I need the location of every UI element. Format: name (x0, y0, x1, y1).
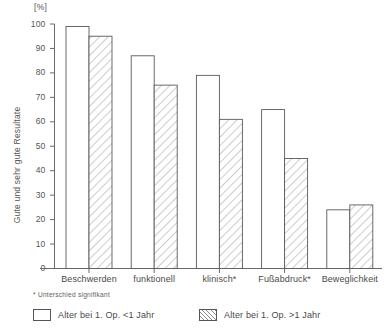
bar (131, 56, 154, 269)
bar (196, 75, 219, 268)
legend-item-open: Alter bei 1. Op. <1 Jahr (33, 309, 154, 321)
bar (89, 36, 112, 268)
legend-item-hatched: Alter bei 1. Op. >1 Jahr (199, 309, 320, 321)
bar (350, 205, 373, 269)
bar (154, 85, 177, 268)
bar (262, 110, 285, 269)
legend-label-hatched: Alter bei 1. Op. >1 Jahr (224, 310, 320, 320)
bar-chart-figure: [%] Gute und sehr gute Resultate 0102030… (0, 0, 391, 330)
y-axis-ticks (50, 24, 55, 269)
bar (285, 158, 308, 268)
bar (66, 26, 89, 268)
legend-label-open: Alter bei 1. Op. <1 Jahr (58, 310, 154, 320)
significance-footnote: * Unterschied signifikant (33, 291, 110, 298)
x-axis-category-label: Beweglichkeit (290, 274, 391, 284)
x-axis-ticks (89, 269, 350, 274)
legend-swatch-hatched (199, 309, 217, 321)
legend-swatch-open (33, 309, 51, 321)
bar (327, 210, 350, 269)
bars-group (66, 26, 373, 268)
bar (219, 119, 242, 268)
chart-legend: Alter bei 1. Op. <1 Jahr Alter bei 1. Op… (33, 309, 383, 327)
